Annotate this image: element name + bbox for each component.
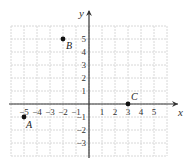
point-label: C — [131, 91, 138, 102]
coordinate-plane: xy −5−4−3−2−112345−3−2−112345 ABC — [0, 0, 191, 165]
y-tick-label: −2 — [76, 125, 86, 135]
y-tick-label: 2 — [82, 73, 87, 83]
y-tick-label: 1 — [82, 86, 87, 96]
x-tick-label: 1 — [100, 107, 105, 117]
y-axis-label: y — [78, 7, 84, 19]
y-tick-label: −1 — [76, 112, 86, 122]
y-tick-label: −3 — [76, 138, 86, 148]
point-marker — [126, 102, 131, 107]
x-axis-label: x — [177, 106, 183, 118]
point-marker — [61, 37, 66, 42]
axes: xy — [9, 7, 183, 158]
y-tick-label: 5 — [82, 34, 87, 44]
x-tick-label: −3 — [45, 107, 55, 117]
x-tick-label: 2 — [113, 107, 118, 117]
y-tick-label: 3 — [82, 60, 87, 70]
point-label: A — [25, 119, 33, 130]
x-tick-label: −2 — [58, 107, 68, 117]
point-label: B — [66, 40, 72, 51]
x-tick-label: 5 — [152, 107, 157, 117]
x-tick-label: 4 — [139, 107, 144, 117]
x-tick-label: 3 — [126, 107, 131, 117]
y-tick-label: 4 — [82, 47, 87, 57]
x-tick-label: −4 — [32, 107, 42, 117]
